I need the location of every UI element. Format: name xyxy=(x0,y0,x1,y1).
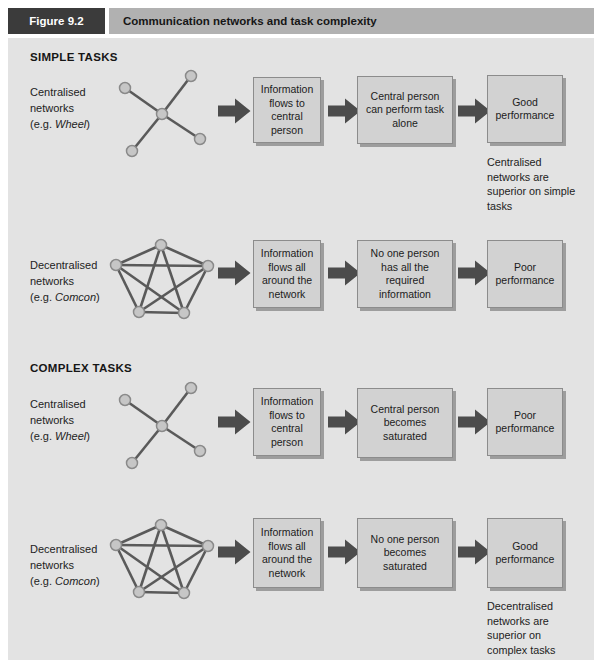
figure-page: { "header": { "figure_label": "Figure 9.… xyxy=(0,0,602,668)
flow-arrow-icon xyxy=(218,409,251,435)
comcon-network-diagram xyxy=(108,237,218,329)
flow-arrow-icon xyxy=(218,260,251,286)
outcome-box: Good performance xyxy=(487,518,563,588)
network-label-line: networks xyxy=(30,273,100,289)
network-label-row4: Decentralised networks (e.g. Comcon) xyxy=(30,541,100,589)
network-label-line: Centralised xyxy=(30,396,90,412)
section-heading-complex-tasks: COMPLEX TASKS xyxy=(30,362,132,374)
figure-title: Communication networks and task complexi… xyxy=(109,8,594,34)
outcome-note: Decentralised networks are superior on c… xyxy=(487,599,579,657)
wheel-network-diagram xyxy=(112,65,212,161)
network-label-eg: (e.g. Wheel) xyxy=(30,428,90,444)
section-heading-simple-tasks: SIMPLE TASKS xyxy=(30,51,118,63)
network-label-line: Centralised xyxy=(30,84,90,100)
network-label-eg: (e.g. Comcon) xyxy=(30,573,100,589)
outcome-note: Centralised networks are superior on sim… xyxy=(487,155,579,213)
process-box: No one person has all the required infor… xyxy=(357,240,453,308)
network-label-line: Decentralised xyxy=(30,541,100,557)
process-box: Central person becomes saturated xyxy=(357,388,453,458)
outcome-box: Poor performance xyxy=(487,240,563,308)
process-box: Information flows to central person xyxy=(253,388,321,456)
network-label-line: networks xyxy=(30,412,90,428)
process-box: Information flows all around the network xyxy=(253,240,321,308)
comcon-network-diagram xyxy=(108,517,218,609)
outcome-box: Good performance xyxy=(487,75,563,143)
network-label-line: networks xyxy=(30,100,90,116)
network-label-row3: Centralised networks (e.g. Wheel) xyxy=(30,396,90,444)
network-label-eg: (e.g. Comcon) xyxy=(30,289,100,305)
network-label-line: Decentralised xyxy=(30,257,100,273)
flow-arrow-icon xyxy=(218,539,251,565)
outcome-box: Poor performance xyxy=(487,388,563,456)
figure-number-label: Figure 9.2 xyxy=(8,8,105,34)
process-box: Information flows all around the network xyxy=(253,518,321,588)
process-box: No one person becomes saturated xyxy=(357,518,453,588)
process-box: Central person can perform task alone xyxy=(357,76,453,144)
figure-panel: SIMPLE TASKS Centralised networks (e.g. … xyxy=(8,38,594,660)
network-label-eg: (e.g. Wheel) xyxy=(30,116,90,132)
flow-arrow-icon xyxy=(218,98,251,124)
network-label-line: networks xyxy=(30,557,100,573)
wheel-network-diagram xyxy=(112,377,212,473)
process-box: Information flows to central person xyxy=(253,77,321,143)
network-label-row2: Decentralised networks (e.g. Comcon) xyxy=(30,257,100,305)
network-label-row1: Centralised networks (e.g. Wheel) xyxy=(30,84,90,132)
